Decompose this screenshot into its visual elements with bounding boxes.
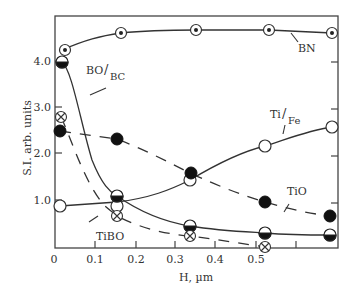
marker-dotted-circle-icon (191, 25, 202, 36)
marker-dotted-circle-icon (264, 25, 275, 36)
marker-filled-circle-icon (54, 125, 66, 137)
x-tick-label: 0.2 (127, 253, 145, 266)
marker-open-circle-icon (259, 140, 271, 152)
marker-crossed-circle-icon (185, 231, 196, 242)
plot-frame (55, 16, 338, 248)
fraction-slash: / (104, 62, 109, 77)
svg-text:BC: BC (110, 71, 126, 82)
marker-dotted-circle-icon (60, 45, 71, 56)
marker-half-filled-circle-icon (111, 190, 123, 202)
series-bo-bc-markers (56, 56, 336, 241)
svg-text:Fe: Fe (288, 115, 300, 126)
series-ti-fe-markers (54, 121, 338, 212)
x-tick-label: 0.3 (166, 253, 184, 266)
marker-filled-circle-icon (111, 133, 123, 145)
svg-text:Ti: Ti (270, 108, 281, 121)
marker-crossed-circle-icon (260, 242, 271, 253)
y-tick-label: 3.0 (34, 101, 52, 114)
x-tick-label: 0.4 (206, 253, 224, 266)
marker-half-filled-circle-icon (324, 229, 336, 241)
marker-crossed-circle-icon (112, 211, 123, 222)
label-ti-fe: Ti / Fe (270, 106, 300, 126)
x-tick-label: 0.1 (86, 253, 104, 266)
series-tibo-line (61, 117, 265, 247)
y-tick-label: 2.0 (34, 147, 52, 160)
series-tio-markers (54, 125, 336, 222)
marker-open-circle-icon (54, 200, 66, 212)
marker-dotted-circle-icon (327, 28, 338, 39)
label-bo-bc: BO / BC (86, 62, 126, 82)
label-bn: BN (298, 42, 316, 55)
svg-text:BO: BO (86, 64, 103, 77)
x-axis-label: H, µm (179, 271, 214, 284)
x-tick-label: 0.5 (247, 253, 265, 266)
marker-half-filled-circle-icon (56, 56, 68, 68)
fraction-slash: / (282, 106, 287, 121)
marker-half-filled-circle-icon (259, 227, 271, 239)
x-tick-label: 0 (51, 253, 58, 266)
marker-filled-circle-icon (259, 196, 271, 208)
y-tick-label: 1.0 (34, 194, 52, 207)
marker-filled-circle-icon (324, 210, 336, 222)
marker-filled-circle-icon (185, 167, 197, 179)
y-tick-label: 4.0 (34, 55, 52, 68)
marker-open-circle-icon (326, 121, 338, 133)
y-tick-labels: 1.0 2.0 3.0 4.0 (34, 55, 52, 207)
chart: 1.0 2.0 3.0 4.0 0 0.1 0.2 0.3 0.4 0.5 H,… (0, 0, 354, 291)
marker-crossed-circle-icon (56, 112, 67, 123)
y-axis-ticks (55, 61, 338, 248)
marker-dotted-circle-icon (116, 28, 127, 39)
y-axis-label: S.I. arb. units (21, 100, 34, 176)
label-tibo: TiBO (96, 230, 124, 243)
x-tick-labels: 0 0.1 0.2 0.3 0.4 0.5 (51, 253, 265, 266)
label-tio: TiO (287, 185, 307, 198)
